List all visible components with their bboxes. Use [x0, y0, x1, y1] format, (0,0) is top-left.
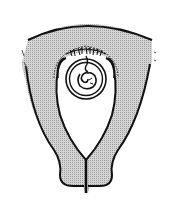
- uterus-diagram: [0, 0, 172, 201]
- uterus-diagram-svg: [0, 0, 172, 201]
- right-edge-mark: [154, 52, 156, 61]
